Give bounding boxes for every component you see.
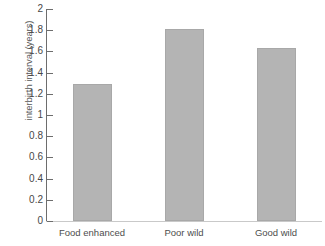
bar-chart-figure: interbirth interval (years) 00.20.40.60.… [0, 0, 325, 246]
bar [73, 84, 112, 221]
y-tick-label: 1.6 [29, 46, 43, 56]
y-tick-mark [47, 30, 53, 31]
y-tick-mark [47, 221, 53, 222]
x-category-label: Poor wild [164, 226, 203, 239]
y-tick-mark [47, 115, 53, 116]
x-axis-line [46, 221, 322, 222]
y-tick-mark [47, 51, 53, 52]
y-tick-label: 0.2 [29, 195, 43, 205]
y-tick-mark [47, 73, 53, 74]
y-tick-mark [47, 179, 53, 180]
x-axis-category-labels: Food enhancedPoor wildGood wild [46, 226, 322, 242]
y-tick-label: 0.4 [29, 174, 43, 184]
y-tick-label: 1 [37, 110, 43, 120]
y-tick-label: 1.2 [29, 89, 43, 99]
x-category-label: Good wild [255, 226, 297, 239]
y-tick-label: 0.6 [29, 152, 43, 162]
y-tick-label: 2 [37, 4, 43, 14]
plot-area: 00.20.40.60.811.21.41.61.82 [46, 9, 322, 221]
y-tick-label: 0 [37, 216, 43, 226]
y-tick-mark [47, 9, 53, 10]
y-tick-mark [47, 157, 53, 158]
y-tick-mark [47, 200, 53, 201]
y-tick-mark [47, 94, 53, 95]
bar [165, 29, 204, 221]
y-tick-mark [47, 136, 53, 137]
y-tick-label: 0.8 [29, 131, 43, 141]
bar [257, 48, 296, 221]
y-tick-label: 1.4 [29, 68, 43, 78]
x-category-label: Food enhanced [59, 226, 125, 239]
y-tick-label: 1.8 [29, 25, 43, 35]
